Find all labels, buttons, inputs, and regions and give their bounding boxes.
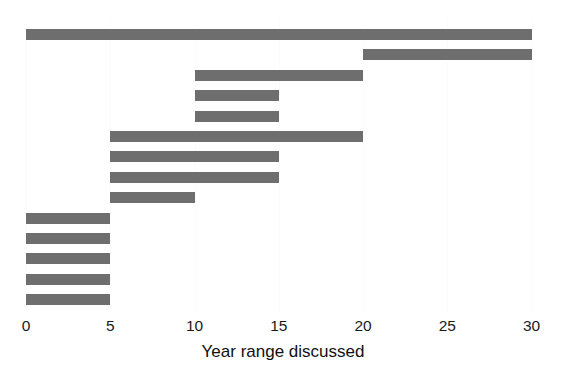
gridline bbox=[447, 18, 448, 312]
chart-root: 051015202530 Year range discussed bbox=[0, 0, 566, 375]
range-bar bbox=[110, 172, 279, 183]
x-tick-label: 0 bbox=[22, 316, 31, 335]
range-bar bbox=[195, 111, 279, 122]
range-bar bbox=[110, 151, 279, 162]
x-tick-label: 15 bbox=[270, 316, 287, 335]
x-tick-label: 5 bbox=[106, 316, 115, 335]
x-tick-label: 20 bbox=[354, 316, 371, 335]
x-tick-label: 25 bbox=[439, 316, 456, 335]
range-bar bbox=[195, 90, 279, 101]
range-bar bbox=[110, 192, 194, 203]
gridline bbox=[532, 18, 533, 312]
gridline bbox=[26, 18, 27, 312]
range-bar bbox=[26, 253, 110, 264]
range-bar bbox=[363, 49, 532, 60]
gridline bbox=[110, 18, 111, 312]
range-bar bbox=[26, 213, 110, 224]
range-bar bbox=[26, 233, 110, 244]
x-axis: 051015202530 Year range discussed bbox=[0, 312, 566, 375]
range-bar bbox=[26, 294, 110, 305]
range-bar bbox=[26, 274, 110, 285]
range-bar bbox=[110, 131, 363, 142]
gridline bbox=[279, 18, 280, 312]
range-bar bbox=[26, 29, 532, 40]
plot-area bbox=[0, 0, 566, 312]
gridline bbox=[195, 18, 196, 312]
gridline bbox=[363, 18, 364, 312]
x-tick-label: 10 bbox=[186, 316, 203, 335]
x-tick-label: 30 bbox=[523, 316, 540, 335]
x-axis-title: Year range discussed bbox=[0, 341, 566, 363]
range-bar bbox=[195, 70, 364, 81]
